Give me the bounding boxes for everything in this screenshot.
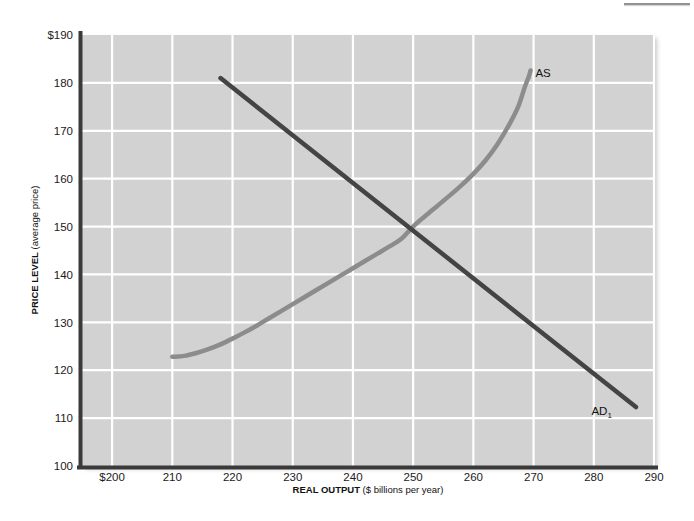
y-tick-label: 130 (54, 317, 73, 329)
plot-background (82, 35, 654, 466)
page-rule-artifact-shadow (624, 5, 690, 6)
x-tick-label: 280 (584, 471, 603, 483)
x-tick-label: 220 (223, 471, 242, 483)
curve-label-subscript: 1 (607, 411, 612, 420)
plot-area-shadow-group (82, 35, 654, 466)
page-rule-artifact (624, 3, 690, 5)
x-tick-label: 270 (524, 471, 543, 483)
y-tick-label: 110 (55, 412, 73, 424)
ad-as-chart: $200210220230240250260270280290 $1901801… (0, 0, 694, 521)
y-tick-label: 170 (54, 125, 73, 137)
y-tick-label: 180 (54, 77, 73, 89)
y-tick-label: 100 (54, 460, 73, 472)
y-tick-label: 120 (54, 364, 73, 376)
x-tick-label: 240 (343, 471, 362, 483)
x-tick-label: 290 (644, 471, 663, 483)
x-axis-title: REAL OUTPUT ($ billions per year) (293, 484, 444, 495)
chart-figure: $200210220230240250260270280290 $1901801… (0, 0, 694, 521)
x-tick-label: 210 (163, 471, 182, 483)
x-tick-label: 250 (404, 471, 423, 483)
x-tick-label: 230 (283, 471, 302, 483)
y-axis-title: PRICE LEVEL (average price) (29, 186, 40, 315)
y-tick-label: 150 (54, 221, 73, 233)
curve-label-as: AS (535, 67, 551, 79)
y-tick-label: 140 (54, 269, 73, 281)
y-tick-label: 160 (54, 173, 73, 185)
y-tick-label: $190 (47, 29, 73, 41)
x-tick-label: 260 (464, 471, 483, 483)
x-tick-label: $200 (99, 471, 125, 483)
